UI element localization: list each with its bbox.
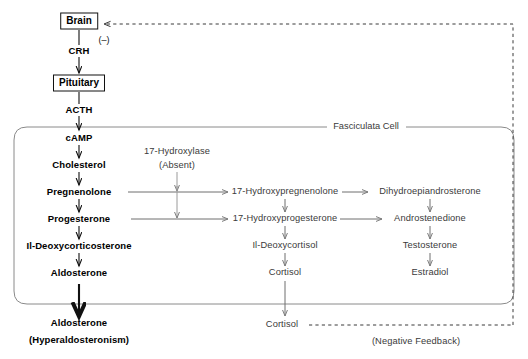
output-cortisol: Cortisol [266,320,298,329]
node-camp: cAMP [66,133,93,143]
node-cortisol: Cortisol [269,268,301,277]
output-aldosterone: Aldosterone [51,318,108,328]
node-deoxycortisol: Il-Deoxycortisol [252,241,317,250]
output-aldosterone-note: (Hyperaldosteronism) [29,335,129,345]
negative-feedback-label: (Negative Feedback) [372,337,460,346]
node-acth: ACTH [66,105,93,115]
node-testosterone: Testosterone [403,241,457,250]
node-brain: Brain [60,13,98,30]
node-deoxycorticosterone: Il-Deoxycorticosterone [26,241,131,251]
enzyme-state-label: (Absent) [159,161,195,170]
node-dhea: Dihydroepiandrosterone [379,187,480,196]
node-aldosterone: Aldosterone [51,268,108,278]
fasciculata-cell-label: Fasciculata Cell [328,122,404,131]
node-17-hydroxyprogesterone: 17-Hydroxyprogesterone [233,214,338,223]
enzyme-name-label: 17-Hydroxylase [144,147,210,156]
negative-sign-label: (–) [99,36,110,45]
node-17-hydroxypregnenolone: 17-Hydroxypregnenolone [232,187,339,196]
node-cholesterol: Cholesterol [52,160,105,170]
diagram-canvas: Brain (–) CRH Pituitary ACTH Fasciculata… [0,0,528,359]
node-pregnenolone: Pregnenolone [47,187,112,197]
node-androstenedione: Androstenedione [394,214,466,223]
negative-feedback-loop [104,24,513,325]
node-progesterone: Progesterone [48,214,110,224]
node-pituitary: Pituitary [53,75,105,92]
node-crh: CRH [69,46,90,56]
node-estradiol: Estradiol [411,268,448,277]
